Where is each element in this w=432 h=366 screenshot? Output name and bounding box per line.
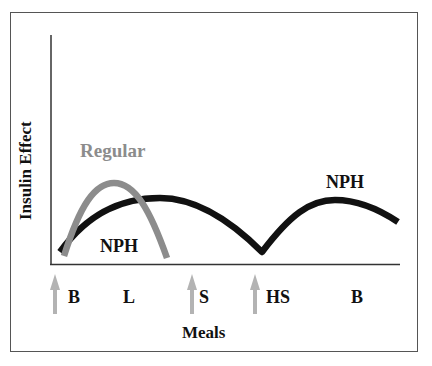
y-axis-label: Insulin Effect [16,121,36,220]
insulin-effect-diagram [0,0,432,366]
tick-label-b2: B [351,288,363,306]
arrow-up-icon [187,274,197,314]
nph-label-upper: NPH [326,173,364,191]
nph-label-lower: NPH [100,237,138,255]
tick-label-l: L [123,288,135,306]
tick-label-hs: HS [266,288,290,306]
x-axis-label: Meals [182,324,225,341]
tick-label-s: S [199,288,209,306]
arrow-up-icon [250,274,260,314]
arrow-up-icon [50,274,60,314]
regular-label: Regular [80,141,145,160]
tick-label-b: B [68,288,80,306]
